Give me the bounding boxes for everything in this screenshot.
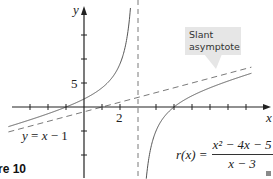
y-tick-label-5: 5 [71,77,78,90]
y-axis-label: y [73,3,79,16]
x-tick-label-2: 2 [116,111,123,124]
figure-caption: re 10 [0,162,26,176]
end-of-example-mark [266,171,271,176]
x-axis-label: x [266,111,272,124]
formula-fraction: x² − 4x − 5 x − 3 [212,137,273,172]
function-formula: r(x) = x² − 4x − 5 x − 3 [176,137,273,172]
formula-numerator: x² − 4x − 5 [212,137,273,155]
callout-pointer [204,54,222,69]
callout-line-2: asymptote [189,41,240,53]
callout-label: Slant asymptote [189,29,240,53]
slant-asymptote-equation: y = x − 1 [22,129,68,142]
callout-line-1: Slant [189,29,240,41]
formula-lhs: r(x) = [176,147,208,163]
formula-denominator: x − 3 [228,155,256,172]
